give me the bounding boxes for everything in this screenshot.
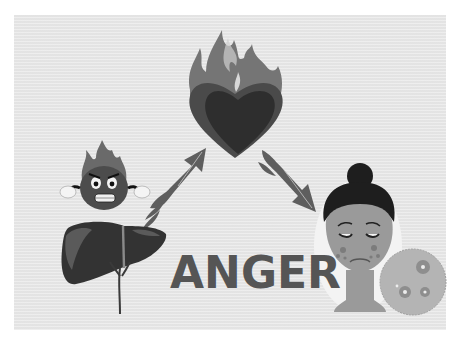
liver-icon bbox=[62, 222, 167, 314]
anger-title: ANGER bbox=[170, 251, 341, 295]
angry-fireball-mascot-icon bbox=[60, 140, 150, 210]
flaming-arrow-down-icon bbox=[258, 150, 316, 212]
acne-magnifier-icon bbox=[380, 249, 446, 315]
flaming-arrow-up-icon bbox=[142, 148, 206, 230]
burning-heart-icon bbox=[189, 30, 283, 158]
